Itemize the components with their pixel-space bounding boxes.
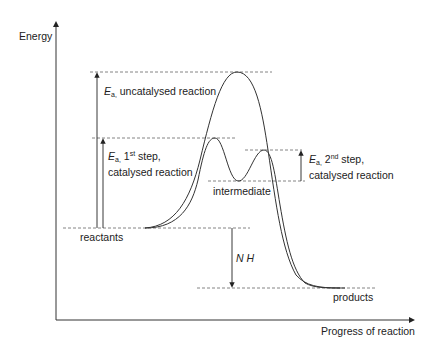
ea-second-step-label: Ea, 2nd step, catalysed reaction — [309, 151, 394, 181]
delta-h-label: N H — [236, 252, 254, 264]
ea-symbol: E — [104, 85, 111, 97]
intermediate-label: intermediate — [213, 185, 271, 197]
ea-uncatalysed-label: Ea, uncatalysed reaction — [104, 85, 216, 101]
x-axis-label: Progress of reaction — [321, 325, 415, 337]
products-label: products — [333, 291, 373, 303]
ea-first-step-label: Ea, 1st step, catalysed reaction — [108, 148, 193, 178]
y-axis-label: Energy — [19, 30, 52, 42]
reactants-label: reactants — [80, 231, 123, 243]
